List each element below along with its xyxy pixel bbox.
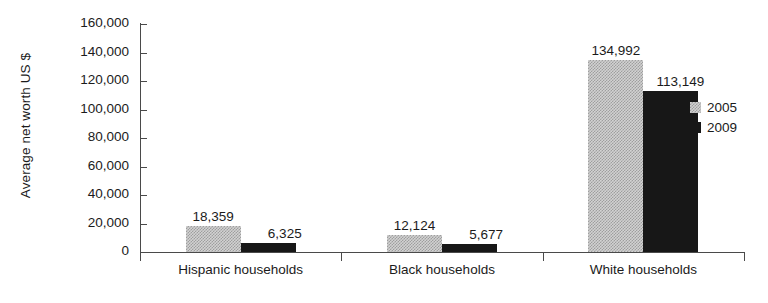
legend-item[interactable]: 2005 xyxy=(690,97,737,117)
bar-group: 12,1245,677 xyxy=(387,24,497,252)
legend-item[interactable]: 2009 xyxy=(690,117,737,137)
bar-2005-white[interactable]: 134,992 xyxy=(588,60,643,252)
y-tick-label: 80,000 xyxy=(88,129,129,144)
x-axis-category-label: Hispanic households xyxy=(140,262,341,277)
light-dithered-swatch xyxy=(690,102,701,113)
y-tick-mark xyxy=(140,138,147,139)
y-tick-mark xyxy=(140,167,147,168)
y-tick-mark xyxy=(140,24,147,25)
y-tick-label: 0 xyxy=(121,243,129,258)
y-tick-label: 60,000 xyxy=(88,158,129,173)
y-tick-mark xyxy=(140,195,147,196)
y-tick-mark xyxy=(140,81,147,82)
x-axis-category-label: Black households xyxy=(341,262,542,277)
y-tick-mark xyxy=(140,252,147,253)
bar-value-label: 6,325 xyxy=(268,226,302,241)
y-tick-label: 100,000 xyxy=(80,101,129,116)
x-axis-line xyxy=(140,252,744,253)
bar-value-label: 5,677 xyxy=(469,227,503,242)
x-axis-tick xyxy=(341,252,342,261)
y-tick-label: 40,000 xyxy=(88,186,129,201)
y-tick-label: 160,000 xyxy=(80,15,129,30)
y-tick-mark xyxy=(140,224,147,225)
bar-chart: Average net worth US $ 160,000140,000120… xyxy=(0,0,768,303)
y-tick-label: 20,000 xyxy=(88,215,129,230)
bar-value-label: 113,149 xyxy=(657,74,705,89)
y-tick-mark xyxy=(140,110,147,111)
bar-value-label: 134,992 xyxy=(591,43,640,58)
bar-value-label: 18,359 xyxy=(193,209,234,224)
x-axis-tick xyxy=(140,252,141,261)
bar-2005-black[interactable]: 12,124 xyxy=(387,235,442,252)
y-tick-label: 140,000 xyxy=(80,44,129,59)
x-axis-tick xyxy=(744,252,745,261)
y-tick-label: 120,000 xyxy=(80,72,129,87)
y-tick-mark xyxy=(140,53,147,54)
legend: 20052009 xyxy=(690,97,737,137)
x-axis-tick xyxy=(543,252,544,261)
plot-area: 160,000140,000120,000100,00080,00060,000… xyxy=(140,24,744,252)
bar-2005-hispanic[interactable]: 18,359 xyxy=(186,226,241,252)
bar-group: 134,992113,149 xyxy=(588,24,698,252)
bar-value-label: 12,124 xyxy=(394,218,435,233)
bar-2009-hispanic[interactable]: 6,325 xyxy=(241,243,296,252)
bar-2009-black[interactable]: 5,677 xyxy=(442,244,497,252)
dark-solid-swatch xyxy=(690,122,701,133)
y-axis-title: Average net worth US $ xyxy=(18,6,33,246)
legend-label: 2009 xyxy=(707,120,737,135)
legend-label: 2005 xyxy=(707,100,737,115)
x-axis-category-label: White households xyxy=(543,262,744,277)
bar-group: 18,3596,325 xyxy=(186,24,296,252)
